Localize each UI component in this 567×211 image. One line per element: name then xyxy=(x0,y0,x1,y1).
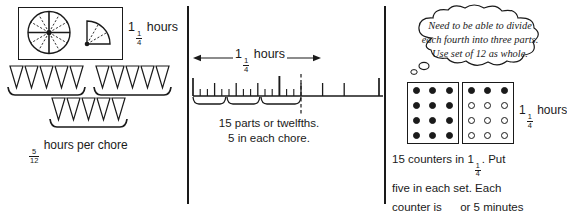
panel1-hours-label: 114 hours xyxy=(128,20,178,48)
panel3-fraction: 14 xyxy=(527,113,533,130)
twelfths-circle xyxy=(28,12,70,54)
panel3-caption-part1: 15 counters in 1 xyxy=(392,153,474,165)
counter-dot-empty xyxy=(468,117,475,124)
counter-dot-empty xyxy=(501,117,508,124)
panel-counters-model: Need to be able to divide each fourth in… xyxy=(386,0,567,211)
panel1-caption-fraction: 512 xyxy=(29,148,39,165)
panel2-caption-line2: 5 in each chore. xyxy=(194,131,344,146)
counter-box-left xyxy=(407,82,459,144)
panel2-caption: 15 parts or twelfths. 5 in each chore. xyxy=(194,116,344,145)
panel-clock-model: 114 hours xyxy=(0,0,187,211)
counter-dot xyxy=(429,87,436,94)
cone-row-2 xyxy=(94,64,171,98)
panel3-caption-fraction-quarter: 14 xyxy=(475,163,481,179)
counter-dot xyxy=(413,132,420,139)
panel1-whole-number: 1 xyxy=(128,20,135,34)
panel2-unit: hours xyxy=(254,47,285,61)
panel1-caption: 512 hours per chore xyxy=(28,138,128,165)
counter-dot xyxy=(429,132,436,139)
counter-dot-empty xyxy=(468,132,475,139)
panel1-caption-text: hours per chore xyxy=(44,138,128,152)
panel3-caption-line1: 15 counters in 114. Put xyxy=(392,150,567,179)
panel3-caption-line3: counter is 112 or 5 minutes xyxy=(392,198,567,211)
panel2-caption-line1: 15 parts or twelfths. xyxy=(194,116,344,131)
clock-and-quarter-svg xyxy=(19,8,120,57)
counter-dot xyxy=(468,87,475,94)
counter-dot xyxy=(501,87,508,94)
cone-row-1 xyxy=(8,64,85,98)
counter-grid-left xyxy=(408,83,458,143)
panel3-caption: 15 counters in 114. Put five in each set… xyxy=(392,150,567,211)
counter-grid-right xyxy=(463,83,513,143)
counter-dot xyxy=(413,117,420,124)
counter-dot xyxy=(484,87,491,94)
counter-dot xyxy=(413,102,420,109)
panel3-caption-part4: or 5 minutes xyxy=(460,201,523,211)
panel2-whole-number: 1 xyxy=(235,47,242,61)
counter-dot-empty xyxy=(484,132,491,139)
panel3-caption-line2: five in each set. Each xyxy=(392,179,567,198)
counter-dot-empty xyxy=(501,102,508,109)
counter-dot-empty xyxy=(468,102,475,109)
panel3-unit: hours xyxy=(537,103,567,117)
panel3-whole-number: 1 xyxy=(519,103,526,117)
counter-dot xyxy=(446,117,453,124)
panel3-hours-label: 114 hours xyxy=(519,103,567,130)
counter-dot xyxy=(446,102,453,109)
counter-dot-empty xyxy=(484,117,491,124)
panel1-fraction: 14 xyxy=(136,30,142,47)
thought-bubble-text: Need to be able to divide each fourth in… xyxy=(418,12,542,68)
counter-dot xyxy=(413,87,420,94)
panel1-unit: hours xyxy=(147,20,178,34)
counter-dot xyxy=(446,87,453,94)
counter-dot-empty xyxy=(484,102,491,109)
counter-dot xyxy=(446,132,453,139)
counter-dot xyxy=(429,117,436,124)
counter-dot xyxy=(429,102,436,109)
panel3-caption-part2: . Put xyxy=(482,153,506,165)
counter-dot-empty xyxy=(501,132,508,139)
panel3-caption-part3: counter is xyxy=(392,201,442,211)
panel-number-line-model: 114 hours xyxy=(189,0,384,211)
cone-row-3 xyxy=(50,96,127,130)
worksheet-page: 114 hours xyxy=(0,0,567,211)
counter-box-right xyxy=(462,82,514,144)
quarter-circle-thirds xyxy=(85,21,110,46)
clock-diagram-box xyxy=(18,7,123,60)
number-line-ruler xyxy=(189,70,383,114)
